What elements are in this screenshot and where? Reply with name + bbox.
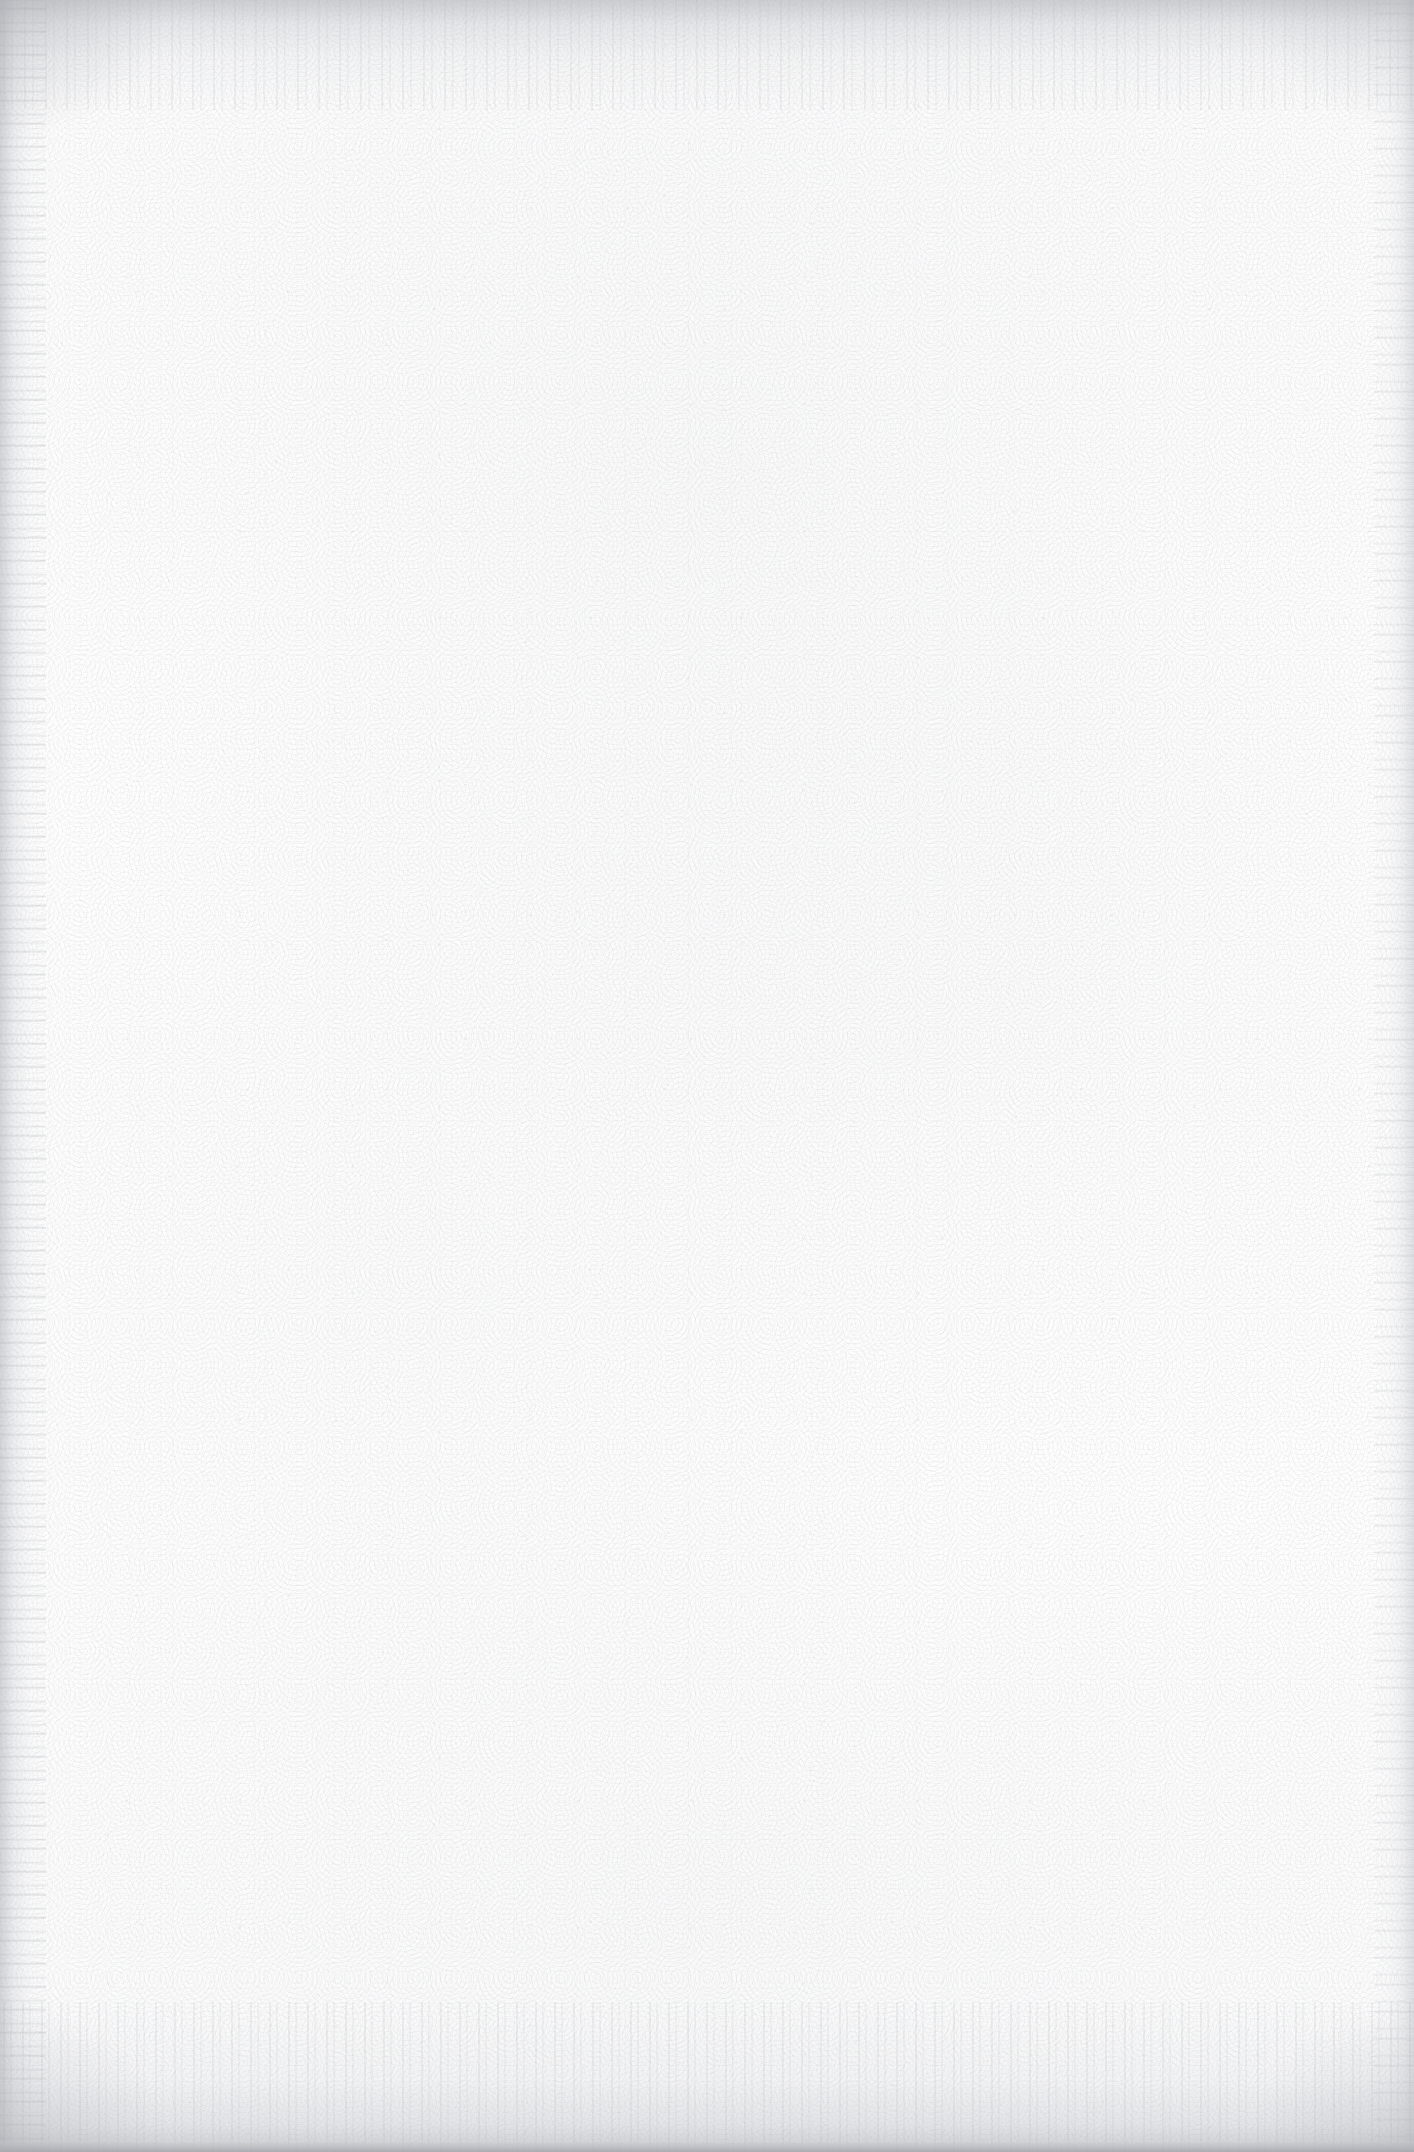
page-content-area: [120, 150, 1294, 1982]
scan-edge-band-left: [0, 0, 46, 2152]
scan-edge-band-top: [0, 0, 1414, 110]
scanned-page: [0, 0, 1414, 2152]
scan-edge-band-right: [1374, 0, 1414, 2152]
scan-edge-rule-bottom: [0, 2141, 1414, 2152]
scan-edge-band-bottom: [0, 2002, 1414, 2152]
